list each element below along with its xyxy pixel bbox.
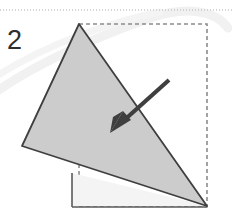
figure-canvas bbox=[0, 0, 232, 216]
step-number-label: 2 bbox=[7, 25, 22, 55]
origami-step-figure: 2 bbox=[0, 0, 232, 216]
